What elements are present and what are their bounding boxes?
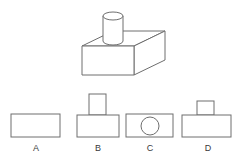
question-sheet: A B C D (0, 0, 243, 163)
cylinder (103, 12, 123, 45)
cylinder-top-ellipse (103, 12, 123, 20)
option-c-circle (141, 117, 159, 135)
option-d-stem (197, 101, 214, 115)
option-label-d: D (188, 143, 228, 154)
option-b-base (77, 115, 119, 137)
option-b-stem (89, 94, 106, 115)
box-front-face (82, 46, 134, 75)
option-b-shape[interactable] (77, 94, 119, 137)
option-a-shape[interactable] (11, 114, 60, 137)
option-c-shape[interactable] (126, 114, 173, 137)
option-label-b: B (78, 143, 118, 154)
option-label-a: A (16, 143, 56, 154)
option-a-base (11, 114, 60, 137)
option-d-base (182, 115, 231, 137)
option-d-shape[interactable] (182, 101, 231, 137)
isometric-solid (82, 12, 165, 75)
option-label-c: C (130, 143, 170, 154)
figure-canvas (0, 0, 243, 163)
